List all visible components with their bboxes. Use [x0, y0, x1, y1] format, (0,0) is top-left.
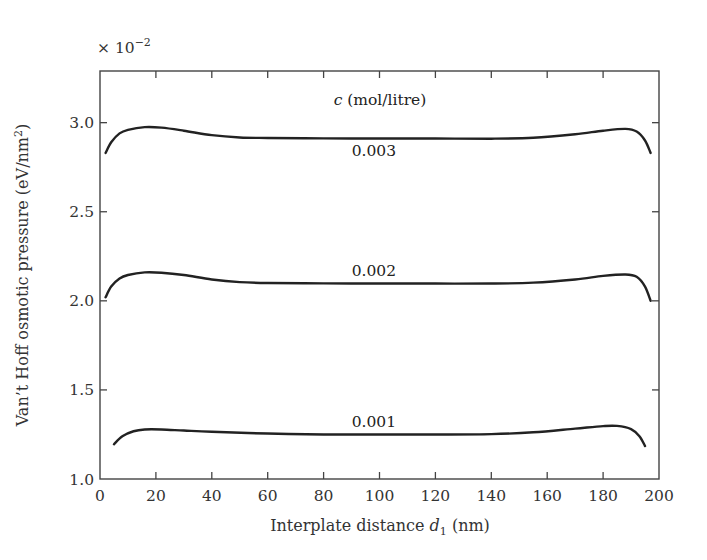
x-tick-label: 20 [146, 487, 166, 505]
x-tick-label: 120 [421, 487, 451, 505]
series-label-0.002: 0.002 [352, 262, 396, 280]
data-curves [106, 127, 651, 446]
x-axis-title: Interplate distance d1 (nm) [270, 516, 490, 538]
y-tick-label: 2.0 [69, 292, 94, 310]
x-tick-label: 80 [314, 487, 334, 505]
x-tick-label: 0 [95, 487, 105, 505]
osmotic-pressure-chart: 020406080100120140160180200 1.01.52.02.5… [0, 0, 707, 560]
x-tick-label: 180 [588, 487, 618, 505]
x-tick-labels: 020406080100120140160180200 [95, 487, 674, 505]
y-axis-title: Van’t Hoff osmotic pressure (eV/nm2) [12, 124, 32, 427]
y-multiplier: × 10−2 [97, 36, 151, 57]
series-label-0.001: 0.001 [352, 413, 396, 431]
y-tick-label: 3.0 [69, 114, 94, 132]
y-tick-label: 1.5 [69, 381, 94, 399]
legend-title: c (mol/litre) [334, 91, 427, 109]
x-tick-label: 100 [365, 487, 395, 505]
x-tick-label: 60 [258, 487, 278, 505]
x-tick-label: 200 [644, 487, 674, 505]
series-labels: 0.0030.0020.001 [352, 142, 396, 431]
x-tick-label: 160 [532, 487, 562, 505]
series-label-0.003: 0.003 [352, 142, 396, 160]
y-tick-label: 1.0 [69, 471, 94, 489]
x-tick-label: 40 [202, 487, 222, 505]
x-tick-label: 140 [477, 487, 507, 505]
y-tick-label: 2.5 [69, 203, 94, 221]
y-tick-labels: 1.01.52.02.53.0 [69, 114, 94, 488]
